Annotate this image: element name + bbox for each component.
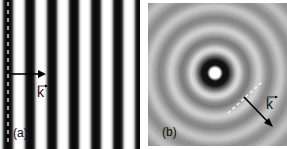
panel-b-label: (b)	[162, 126, 177, 138]
panel-b-spherical-wave: k (b)	[148, 3, 287, 146]
panel-a-label: (a)	[13, 127, 28, 139]
wave-vector-label-b: k	[266, 98, 273, 110]
panel-a-plane-wave: k (a)	[0, 0, 140, 149]
wave-vector-arrow	[244, 97, 268, 122]
arrowhead-icon	[38, 70, 46, 78]
wave-vector-label-a: k	[37, 86, 44, 98]
